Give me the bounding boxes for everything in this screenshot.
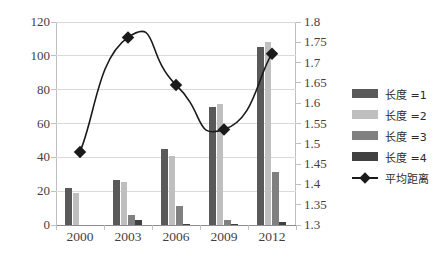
legend-item-label: 平均距离 <box>385 170 429 186</box>
x-axis-label: 2012 <box>248 230 296 244</box>
plot-area: 20002003200620092012 <box>56 22 296 225</box>
right-axis-label: 1.8 <box>304 15 350 28</box>
right-axis-tick <box>296 82 301 83</box>
right-axis-label: 1.35 <box>304 198 350 211</box>
left-axis-label: 20 <box>4 184 50 197</box>
right-axis-tick <box>296 123 301 124</box>
right-axis-label: 1.4 <box>304 177 350 190</box>
right-axis-tick <box>296 204 301 205</box>
legend-item[interactable]: 长度 =3 <box>352 125 444 146</box>
x-axis-label: 2000 <box>56 230 104 244</box>
line-series-layer <box>56 22 296 225</box>
line-series-marker <box>266 47 278 59</box>
left-axis-label: 0 <box>4 218 50 231</box>
legend-diamond-icon <box>359 172 370 183</box>
right-axis-label: 1.5 <box>304 137 350 150</box>
legend-item-label: 长度 =4 <box>385 149 427 165</box>
right-axis-label: 1.6 <box>304 96 350 109</box>
legend-item[interactable]: 长度 =4 <box>352 146 444 167</box>
right-axis-label: 1.45 <box>304 157 350 170</box>
right-axis-tick <box>296 164 301 165</box>
legend-item-label: 长度 =2 <box>385 107 427 123</box>
legend-swatch-icon <box>352 110 378 119</box>
right-axis-tick <box>296 62 301 63</box>
right-axis-tick <box>296 42 301 43</box>
legend-item-label: 长度 =3 <box>385 128 427 144</box>
right-axis-label: 1.65 <box>304 76 350 89</box>
legend-item[interactable]: 长度 =2 <box>352 104 444 125</box>
left-axis-label: 80 <box>4 83 50 96</box>
line-series-marker <box>218 123 230 135</box>
left-axis-label: 60 <box>4 117 50 130</box>
right-axis-label: 1.75 <box>304 35 350 48</box>
legend-swatch-icon <box>352 89 378 98</box>
x-axis-label: 2009 <box>200 230 248 244</box>
legend-swatch-icon <box>352 152 378 161</box>
right-axis-tick <box>296 184 301 185</box>
legend: 长度 =1长度 =2长度 =3长度 =4平均距离 <box>352 83 444 188</box>
line-series-marker <box>74 146 86 158</box>
left-axis-label: 40 <box>4 150 50 163</box>
right-axis-label: 1.55 <box>304 117 350 130</box>
legend-line-diamond-icon <box>352 172 378 183</box>
x-axis-label: 2003 <box>104 230 152 244</box>
right-axis-tick <box>296 22 301 23</box>
legend-item[interactable]: 长度 =1 <box>352 83 444 104</box>
legend-item-label: 长度 =1 <box>385 86 427 102</box>
right-axis-label: 1.7 <box>304 56 350 69</box>
x-axis-tick <box>296 225 297 230</box>
legend-item[interactable]: 平均距离 <box>352 167 444 188</box>
right-axis-tick <box>296 143 301 144</box>
chart-container: 20002003200620092012 020406080100120 1.3… <box>0 0 445 269</box>
right-axis-label: 1.3 <box>304 218 350 231</box>
line-series-path <box>80 31 272 152</box>
left-axis-label: 120 <box>4 15 50 28</box>
right-axis-tick <box>296 103 301 104</box>
legend-swatch-icon <box>352 131 378 140</box>
x-axis-label: 2006 <box>152 230 200 244</box>
left-axis-label: 100 <box>4 49 50 62</box>
